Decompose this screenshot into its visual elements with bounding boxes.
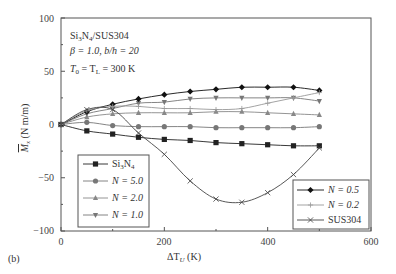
legend-right: N = 0.5 N = 0.2 SUS304 bbox=[293, 180, 369, 229]
legend-label-n5: N = 5.0 bbox=[111, 175, 143, 186]
x-axis-label: ΔTU (K) bbox=[167, 251, 201, 264]
x-tick-600: 600 bbox=[364, 236, 379, 247]
legend-label-n2: N = 2.0 bbox=[111, 192, 143, 203]
y-tick-neg50: −50 bbox=[38, 172, 54, 183]
annotation-temperature: T0 = TL = 300 K bbox=[70, 63, 136, 76]
y-tick-50: 50 bbox=[44, 66, 54, 77]
legend-label-n02: N = 0.2 bbox=[327, 199, 359, 210]
x-tick-400: 400 bbox=[261, 236, 276, 247]
panel-label: (b) bbox=[8, 253, 20, 265]
legend-label-n1: N = 1.0 bbox=[111, 209, 143, 220]
x-tick-200: 200 bbox=[157, 236, 172, 247]
legend-label-sus304: SUS304 bbox=[328, 214, 361, 225]
y-tick-100: 100 bbox=[39, 13, 54, 24]
series-n-0-5 bbox=[58, 84, 323, 127]
annotation-material: Si3N4/SUS304 bbox=[70, 30, 129, 43]
annotation-params: β = 1.0, b/h = 20 bbox=[69, 45, 139, 56]
y-tick-neg100: −100 bbox=[33, 225, 54, 236]
legend-left: Si3N4 N = 5.0 N = 2.0 N = 1.0 bbox=[78, 155, 149, 227]
x-tick-0: 0 bbox=[59, 236, 64, 247]
y-axis-label: Mx (N m/m) bbox=[19, 104, 32, 154]
legend-label-n05: N = 0.5 bbox=[327, 184, 359, 195]
series-n-5-0 bbox=[58, 120, 322, 131]
chart: 100 50 0 −50 −100 0 200 400 600 ΔTU (K) … bbox=[0, 0, 396, 274]
y-tick-0: 0 bbox=[49, 119, 54, 130]
